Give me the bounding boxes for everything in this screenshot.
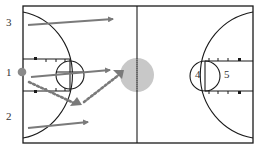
player-1-marker: [18, 68, 27, 77]
pass-path-dotted-up: [84, 74, 120, 102]
basketball-court-diagram: [0, 0, 258, 150]
player-1-label: 1: [6, 67, 12, 78]
cut-arrow-player-2: [28, 122, 88, 128]
player-5-label: 5: [224, 69, 230, 80]
player-2-label: 2: [6, 111, 12, 122]
player-3-label: 3: [6, 17, 12, 28]
player-4-label: 4: [195, 69, 201, 80]
cut-arrow-player-3: [28, 19, 113, 25]
